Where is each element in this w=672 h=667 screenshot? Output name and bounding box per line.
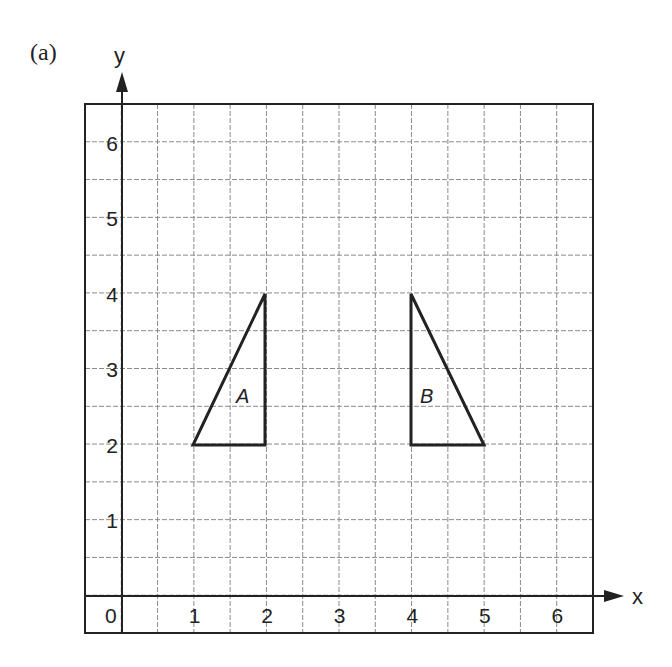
y-axis-label: y (114, 43, 125, 68)
triangle-a-label: A (235, 385, 249, 407)
x-tick-labels: 123456 (189, 604, 564, 627)
coordinate-grid-figure: (a) y x 0 123456 123456 A B (0, 0, 672, 667)
x-tick-label: 6 (552, 604, 564, 627)
x-tick-label: 5 (479, 604, 491, 627)
y-axis-arrow-icon (116, 72, 128, 92)
y-tick-labels: 123456 (106, 132, 118, 533)
triangle-b-label: B (420, 385, 433, 407)
triangle-a (193, 294, 265, 445)
x-tick-label: 1 (189, 604, 201, 627)
y-tick-label: 2 (106, 434, 118, 457)
y-tick-label: 6 (106, 132, 118, 155)
y-tick-label: 5 (106, 207, 118, 230)
x-axis-label: x (632, 584, 643, 609)
part-label: (a) (30, 39, 57, 65)
origin-label: 0 (105, 604, 117, 627)
x-tick-label: 3 (334, 604, 346, 627)
y-tick-label: 4 (106, 283, 118, 306)
x-axis-arrow-icon (604, 590, 624, 602)
y-tick-label: 1 (106, 509, 118, 532)
x-tick-label: 2 (261, 604, 273, 627)
grid-lines (85, 104, 593, 633)
y-tick-label: 3 (106, 358, 118, 381)
x-tick-label: 4 (406, 604, 418, 627)
